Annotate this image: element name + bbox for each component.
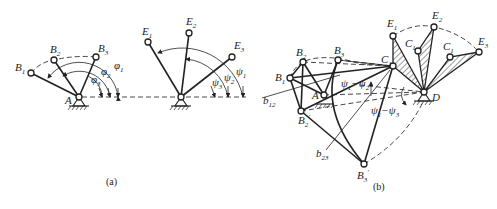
- label-d-b: D: [431, 91, 440, 103]
- ground-support-a-b: [315, 104, 334, 108]
- linkage-diagram: B1 B2 B3 A φ1 φ2 φ3 E1 E2 E3: [0, 0, 497, 209]
- panel-a: B1 B2 B3 A φ1 φ2 φ3 E1 E2 E3: [15, 15, 246, 188]
- label-e3-b: E3: [477, 35, 489, 50]
- caption-b: (b): [373, 181, 385, 193]
- label-phi1: φ1: [114, 59, 124, 74]
- label-phi3: φ3: [91, 73, 101, 88]
- joint-b1: [28, 70, 34, 76]
- joint-e2-b: [431, 24, 437, 30]
- crank-path-arc: [31, 56, 96, 73]
- joint-e3: [229, 54, 235, 60]
- label-phi2: φ2: [101, 65, 111, 80]
- label-b3-prime: B3′: [357, 168, 369, 184]
- label-e1-b: E1: [386, 17, 397, 32]
- label-b2: B2: [50, 43, 61, 58]
- pivot-d: [178, 94, 184, 100]
- label-e1: E1: [141, 25, 152, 40]
- label-c1-pos2: C1: [405, 37, 416, 52]
- label-psi3: ψ3: [212, 76, 223, 91]
- joint-e2: [186, 30, 192, 36]
- joint-c1-pos2: [415, 48, 421, 54]
- crank-positions: [31, 56, 96, 97]
- label-e3: E3: [233, 39, 245, 54]
- label-b2-prime: B2′: [298, 113, 310, 129]
- label-b1: B1: [15, 61, 25, 76]
- label-e2-b: E2: [431, 9, 443, 24]
- joint-b3: [93, 54, 99, 60]
- pivot-a-b: [321, 92, 327, 98]
- label-c1-pos3: C1: [443, 40, 454, 55]
- label-e2: E2: [185, 15, 197, 30]
- label-a: A: [64, 94, 72, 106]
- label-psi2: ψ2: [224, 71, 235, 86]
- label-psi1-minus-psi3: ψ1−ψ3: [371, 104, 400, 119]
- joint-e3-b: [476, 49, 482, 55]
- pivot-a: [76, 94, 82, 100]
- joint-b3-prime: [361, 161, 367, 167]
- label-a-b: A: [311, 89, 319, 101]
- joint-e1-b: [390, 33, 396, 39]
- caption-a: (a): [106, 176, 117, 188]
- label-b1-b: B1: [275, 71, 285, 86]
- joint-b1-b: [287, 75, 293, 81]
- label-b12: b12: [263, 94, 276, 109]
- label-b3: B3: [98, 42, 109, 57]
- label-psi1: ψ1: [236, 65, 246, 80]
- panel-b: B2 B3 B1 b12 A B2′ b23 B3′ C1 C1 C1 E1 E…: [262, 9, 489, 193]
- pivot-d-b: [421, 89, 427, 95]
